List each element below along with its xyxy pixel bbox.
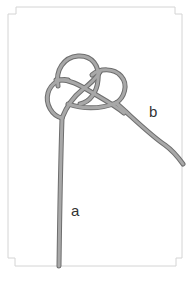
rope-end-label-a: a [71, 203, 79, 218]
knot-rope [47, 56, 183, 266]
knot-drawing [0, 0, 189, 281]
rope-end-label-b: b [149, 104, 157, 119]
knot-diagram: a b [0, 0, 189, 281]
